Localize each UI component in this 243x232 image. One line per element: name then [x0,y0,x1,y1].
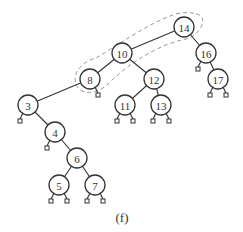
node-label-11: 11 [120,100,131,112]
null-leaf-4-left [45,146,49,150]
tree-node-16: 16 [196,43,216,63]
null-leaf-5-right [65,199,69,203]
null-leaf-8-right [96,93,100,97]
null-leaf-17-left [208,93,212,97]
tree-node-4: 4 [45,122,65,142]
node-label-10: 10 [117,48,129,60]
node-label-6: 6 [74,153,80,165]
null-leaf-13-right [167,119,171,123]
node-label-13: 13 [156,100,168,112]
tree-node-13: 13 [151,95,171,115]
null-leaf-7-left [85,199,89,203]
null-leaf-17-right [224,93,228,97]
tree-node-5: 5 [49,175,69,195]
null-leaf-11-right [131,119,135,123]
tree-node-11: 11 [115,95,135,115]
tree-node-12: 12 [144,69,164,89]
null-leaf-7-right [101,199,105,203]
node-label-3: 3 [25,100,31,112]
tree-node-6: 6 [67,148,87,168]
node-label-5: 5 [56,180,62,192]
node-label-7: 7 [92,180,98,192]
node-label-8: 8 [87,74,93,86]
tree-node-10: 10 [112,43,132,63]
tree-node-7: 7 [85,175,105,195]
node-label-17: 17 [213,74,225,86]
node-label-4: 4 [52,127,58,139]
null-leaf-16-left [196,67,200,71]
null-leaf-3-left [18,119,22,123]
node-label-12: 12 [149,74,160,86]
node-label-16: 16 [201,48,213,60]
null-leaf-11-left [115,119,119,123]
node-label-14: 14 [179,22,191,34]
tree-node-14: 14 [174,17,194,37]
tree-node-3: 3 [18,95,38,115]
tree-node-8: 8 [80,69,100,89]
figure-caption: (f) [116,210,129,225]
tree-diagram: 14161710121113834657 (f) [0,0,243,232]
null-leaf-13-left [151,119,155,123]
null-leaf-5-left [49,199,53,203]
tree-node-17: 17 [208,69,228,89]
nodes-layer: 14161710121113834657 [18,17,228,195]
